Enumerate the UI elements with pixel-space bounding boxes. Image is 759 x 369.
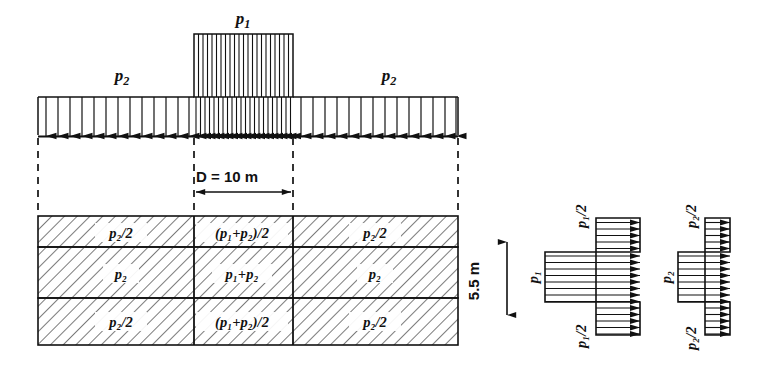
p1-diagram-middle-label: p₁: [525, 271, 541, 285]
soil-block: p₂/2 (p₁+p₂)/2 p₂/2 p₂ p₁+p₂ p₂ p₂/2: [38, 216, 458, 345]
dimension-depth-label: 5.5 m: [465, 262, 482, 300]
pressure-diagram-p1: p₁/2 p₁ p₁/2: [525, 204, 640, 350]
soil-label-middle-right: p₂: [367, 266, 381, 282]
p2-diagram-top-label: p₂/2: [683, 204, 699, 230]
soil-label-middle-left: p₂: [113, 266, 127, 282]
soil-label-top-left: p₂/2: [107, 225, 133, 241]
top-load-diagram: p1 p2 p2: [38, 9, 458, 137]
soil-label-bottom-right: p₂/2: [361, 314, 387, 330]
pressure-diagram-p2: p₂/2 p₂ p₂/2: [658, 204, 730, 352]
p2-left-arrows: [46, 97, 189, 136]
p2-right-arrows: [301, 97, 456, 136]
p1-top-label: p1: [234, 9, 251, 31]
soil-label-middle-center: p₁+p₂: [224, 266, 259, 282]
dimension-D-label: D = 10 m: [196, 168, 258, 185]
p2-diagram-bottom-label: p₂/2: [683, 326, 699, 352]
p1-load-hatch-lines: [199, 34, 289, 97]
soil-label-bottom-left: p₂/2: [107, 314, 133, 330]
p2-bottom-arrows: [705, 308, 730, 334]
p2-diagram-middle-label: p₂: [658, 271, 674, 285]
p1-middle-arrows: [545, 256, 640, 302]
p1-top-arrows: [596, 223, 640, 249]
p1-arrows: [196, 97, 291, 136]
p2-right-label: p2: [380, 66, 397, 88]
dimension-depth: 5.5 m: [465, 242, 507, 315]
p1-diagram-bottom-label: p₁/2: [573, 324, 589, 350]
p2-top-arrows: [705, 223, 730, 249]
p1-bottom-arrows: [596, 308, 640, 334]
soil-label-top-center: (p₁+p₂)/2: [215, 225, 269, 242]
p1-load-block: [194, 34, 293, 97]
diagram-canvas: p1 p2 p2 D = 10 m: [0, 0, 759, 369]
p1-diagram-top-label: p₁/2: [573, 204, 589, 230]
soil-label-top-right: p₂/2: [361, 225, 387, 241]
p2-middle-arrows: [678, 256, 730, 302]
soil-label-bottom-center: (p₁+p₂)/2: [215, 314, 269, 331]
soil-row-top-labels: p₂/2 (p₁+p₂)/2 p₂/2: [95, 223, 401, 242]
soil-row-bottom-labels: p₂/2 (p₁+p₂)/2 p₂/2: [95, 312, 401, 331]
p2-left-label: p2: [113, 66, 130, 88]
dimension-D: D = 10 m: [196, 168, 291, 192]
